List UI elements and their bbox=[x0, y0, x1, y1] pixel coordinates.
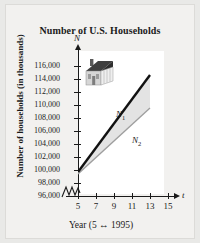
y-tick-label: 98,000 bbox=[38, 179, 60, 187]
series-n1-label-sub: 1 bbox=[122, 114, 125, 121]
y-axis-variable: N bbox=[74, 33, 80, 43]
y-axis-arrow-icon bbox=[75, 44, 81, 50]
x-tick bbox=[168, 193, 169, 199]
y-tick-label: 116,000 bbox=[34, 62, 60, 70]
x-tick-label: 11 bbox=[125, 201, 139, 211]
x-axis-label: Year (5 ↔ 1995) bbox=[36, 220, 166, 230]
x-axis-variable: t bbox=[182, 190, 185, 200]
x-tick-label: 9 bbox=[107, 201, 121, 211]
series-n2-label: N2 bbox=[132, 135, 141, 147]
y-tick-label: 100,000 bbox=[34, 166, 60, 174]
y-tick-label: 112,000 bbox=[34, 88, 60, 96]
series-n1-label: N1 bbox=[116, 109, 125, 121]
figure-page: Number of U.S. Households Number of hous… bbox=[0, 0, 200, 243]
y-axis-label: Number of households (in thousands) bbox=[15, 26, 25, 186]
y-tick-label: 106,000 bbox=[34, 127, 60, 135]
house-illustration-icon bbox=[82, 57, 118, 91]
y-tick-label: 108,000 bbox=[34, 114, 60, 122]
y-tick-label: 96,000 bbox=[38, 192, 60, 200]
x-tick-label: 13 bbox=[143, 201, 157, 211]
x-tick-label: 5 bbox=[71, 201, 85, 211]
x-axis-arrow-icon bbox=[174, 193, 180, 199]
y-tick-label: 110,000 bbox=[34, 101, 60, 109]
figure-card: Number of U.S. Households Number of hous… bbox=[6, 5, 194, 238]
y-tick-label: 114,000 bbox=[34, 75, 60, 83]
y-tick-label: 104,000 bbox=[34, 140, 60, 148]
x-axis-line bbox=[66, 196, 174, 197]
series-n2-label-sub: 2 bbox=[138, 140, 141, 147]
x-tick-label: 7 bbox=[89, 201, 103, 211]
x-tick-label: 15 bbox=[161, 201, 175, 211]
y-tick-label: 102,000 bbox=[34, 153, 60, 161]
page-title: Number of U.S. Households bbox=[6, 25, 194, 36]
